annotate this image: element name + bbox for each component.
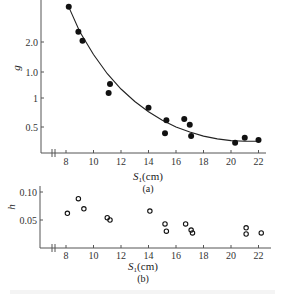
panel-a-label: (a) <box>142 183 153 195</box>
data-point <box>80 38 86 44</box>
x-tick-label: 12 <box>116 156 126 167</box>
data-point <box>256 137 262 143</box>
panel-b-y-ticks: 0.100.05 <box>20 187 44 226</box>
data-point <box>65 211 69 215</box>
y-tick-label: 0.10 <box>20 187 38 198</box>
panel-b-x-ticks: 810121416182022 <box>64 245 264 261</box>
x-tick-label: 12 <box>116 250 126 261</box>
data-point <box>187 122 193 128</box>
data-point <box>163 117 169 123</box>
panel-a-x-axis-title: S1(cm) <box>133 170 163 184</box>
x-tick-label: 18 <box>199 156 209 167</box>
data-point <box>183 222 187 226</box>
panel-b-chart: 810121416182022 0.100.05 h S1(cm) (b) <box>5 186 271 285</box>
panel-a-chart: 810121416182022 2.01.010.5 g S1(cm) (a) <box>10 0 266 195</box>
y-tick-label: 1.0 <box>26 67 39 78</box>
data-point <box>162 130 168 136</box>
data-point <box>259 231 263 235</box>
data-point <box>164 229 168 233</box>
data-point <box>244 232 248 236</box>
data-point <box>75 29 81 35</box>
data-point <box>106 90 112 96</box>
data-point <box>163 222 167 226</box>
x-tick-label: 16 <box>171 250 181 261</box>
x-tick-label: 14 <box>144 156 154 167</box>
x-tick-label: 22 <box>254 250 264 261</box>
x-tick-label: 10 <box>89 156 99 167</box>
y-tick-label: 0.5 <box>26 122 39 133</box>
data-point <box>76 197 80 201</box>
x-tick-label: 20 <box>226 156 236 167</box>
panel-b-y-axis-title: h <box>5 204 17 210</box>
x-tick-label: 20 <box>226 250 236 261</box>
x-tick-label: 22 <box>254 156 264 167</box>
data-point <box>82 207 86 211</box>
data-point <box>107 81 113 87</box>
y-tick-label: 1 <box>33 93 38 104</box>
panel-b-data-points <box>65 197 263 237</box>
x-tick-label: 16 <box>171 156 181 167</box>
panel-b-label: (b) <box>137 273 149 285</box>
data-point <box>188 133 194 139</box>
x-tick-label: 8 <box>64 156 69 167</box>
panel-b-x-axis-title: S1(cm) <box>128 260 158 274</box>
data-point <box>244 226 248 230</box>
x-tick-label: 10 <box>89 250 99 261</box>
x-tick-label: 8 <box>64 250 69 261</box>
panel-a-y-axis-title: g <box>10 65 22 71</box>
x-tick-label: 18 <box>199 250 209 261</box>
y-tick-label: 0.05 <box>20 215 38 226</box>
data-point <box>242 135 248 141</box>
data-point <box>232 140 238 146</box>
figure: 810121416182022 2.01.010.5 g S1(cm) (a) … <box>0 0 281 294</box>
data-point <box>146 105 152 111</box>
data-point <box>181 116 187 122</box>
data-point <box>148 209 152 213</box>
panel-a-data-points <box>66 4 262 146</box>
cropped-caption-remnant <box>10 290 275 294</box>
data-point <box>66 4 72 10</box>
y-tick-label: 2.0 <box>26 37 39 48</box>
